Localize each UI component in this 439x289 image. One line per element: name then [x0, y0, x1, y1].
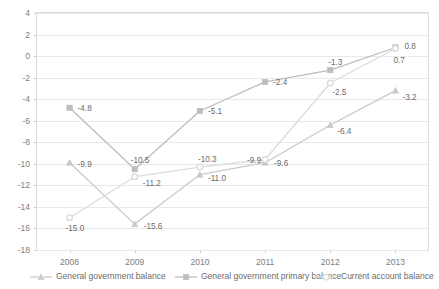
y-axis-tick-label: 4 [25, 8, 30, 18]
y-axis-tick-label: -16 [18, 223, 31, 233]
data-point-label: -9.9 [78, 160, 93, 169]
data-point-marker [393, 46, 399, 52]
x-axis-tick-label: 2013 [386, 257, 405, 267]
data-point-marker [67, 215, 73, 221]
x-axis-tick-label: 2008 [60, 257, 79, 267]
data-point-marker [132, 174, 138, 180]
y-axis-tick-label: 2 [25, 30, 30, 40]
data-point-label: -15.6 [144, 222, 163, 231]
x-axis-tick-label: 2009 [125, 257, 144, 267]
data-point-label: -4.8 [78, 104, 93, 113]
data-point-label: -10.5 [131, 156, 150, 165]
data-point-label: -3.2 [402, 93, 417, 102]
x-axis-tick-label: 2012 [321, 257, 340, 267]
legend-label: General government primary balance [201, 271, 342, 281]
data-point-marker [197, 108, 202, 113]
data-point-label: -9.6 [274, 159, 289, 168]
legend-item-2[interactable]: General government primary balance [175, 271, 342, 281]
data-point-label: -2.4 [273, 78, 288, 87]
data-point-marker [132, 167, 137, 172]
data-point-label: 0.7 [393, 56, 405, 65]
data-point-label: -6.4 [337, 127, 352, 136]
x-axis-tick-labels: 200820092010201120122013 [60, 250, 405, 267]
data-point-label: -5.1 [208, 107, 223, 116]
data-point-marker [327, 80, 333, 86]
legend-item-1[interactable]: General government balance [30, 271, 166, 281]
y-axis-tick-label: -8 [22, 137, 30, 147]
data-point-marker [262, 79, 267, 84]
y-axis-tick-label: -10 [18, 159, 31, 169]
data-point-marker [327, 122, 333, 128]
x-axis-tick-label: 2011 [256, 257, 275, 267]
y-axis-tick-label: -4 [22, 94, 30, 104]
data-point-label: -9.9 [247, 156, 262, 165]
y-axis-tick-label: -2 [22, 73, 30, 83]
data-point-marker [323, 274, 329, 280]
series-line-1 [70, 91, 396, 225]
data-point-marker [67, 105, 72, 110]
data-point-marker [38, 274, 44, 280]
y-axis-tick-labels: 420-2-4-6-8-10-12-14-16-18 [18, 8, 31, 255]
data-point-marker [197, 164, 203, 170]
data-point-marker [328, 67, 333, 72]
data-point-marker [392, 87, 398, 93]
data-point-label: -11.2 [143, 179, 161, 188]
line-chart: 420-2-4-6-8-10-12-14-16-18 2008200920102… [0, 0, 439, 289]
data-point-label: -11.0 [208, 174, 226, 183]
y-axis-tick-label: -18 [18, 245, 31, 255]
y-axis-tick-label: -6 [22, 116, 30, 126]
data-point-labels: -9.9-15.6-11.0-9.9-6.4-3.2-4.8-10.5-5.1-… [66, 42, 417, 232]
y-axis-tick-label: -14 [18, 202, 31, 212]
legend-label: General government balance [56, 271, 166, 281]
data-point-label: -15.0 [66, 224, 85, 233]
legend-label: Current account balance [341, 271, 434, 281]
chart-svg: 420-2-4-6-8-10-12-14-16-18 2008200920102… [0, 0, 439, 289]
data-point-marker [183, 274, 188, 279]
data-point-label: -2.5 [332, 88, 347, 97]
data-point-marker [262, 157, 268, 163]
x-axis-tick-label: 2010 [190, 257, 209, 267]
y-axis-tick-label: 0 [25, 51, 30, 61]
data-point-label: -10.3 [198, 155, 217, 164]
data-point-label: 0.8 [404, 42, 416, 51]
chart-legend: General government balanceGeneral govern… [30, 271, 434, 281]
data-point-label: -1.3 [328, 58, 343, 67]
y-axis-tick-label: -12 [18, 180, 31, 190]
series-line-2 [70, 48, 396, 170]
data-point-marker [66, 160, 72, 166]
